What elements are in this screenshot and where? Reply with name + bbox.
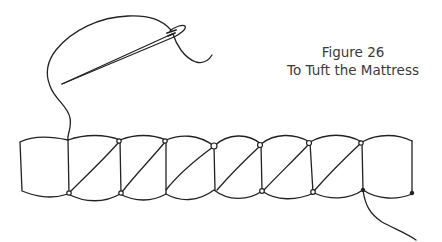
- thread-main: [47, 16, 171, 140]
- seam-6: [310, 142, 313, 193]
- knot-top-4: [258, 143, 263, 148]
- knot-bottom-1: [67, 191, 71, 195]
- diagonal-stitch-2: [122, 142, 165, 192]
- thread-tail: [173, 34, 212, 63]
- knot-top-2: [163, 139, 167, 143]
- seam-5: [261, 144, 262, 191]
- knot-bottom-2: [119, 191, 123, 195]
- left-end: [20, 137, 68, 197]
- knot-right-end: [410, 191, 414, 195]
- needle-icon: [62, 25, 185, 84]
- knot-bottom-5: [311, 190, 316, 195]
- diagonal-stitch-3: [166, 147, 213, 190]
- diagonal-stitch-4: [217, 146, 260, 190]
- knot-top-1: [117, 139, 121, 143]
- needle-shaft-lower: [62, 37, 174, 84]
- seam-7: [362, 142, 363, 190]
- seam-4: [214, 146, 215, 190]
- knot-top-5: [307, 141, 312, 146]
- tufting-illustration: [0, 0, 442, 242]
- knot-top-6: [359, 141, 363, 145]
- diagonal-stitch-6: [314, 143, 361, 191]
- knot-bottom-4: [260, 189, 265, 194]
- seam-2: [120, 140, 121, 194]
- knot-top-3: [211, 143, 217, 149]
- seam-1: [68, 140, 69, 194]
- diagonal-stitch-5: [264, 144, 309, 190]
- diagonal-stitch-1: [70, 142, 119, 192]
